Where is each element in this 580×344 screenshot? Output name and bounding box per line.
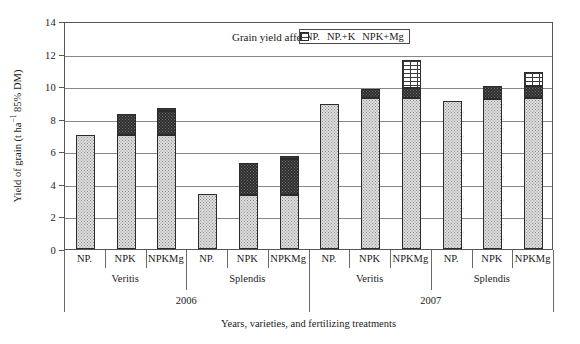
- y-tick-label-10: 10: [30, 82, 56, 93]
- treatment-label-8: NPKMg: [390, 253, 431, 264]
- variety-label-3: Splendis: [431, 273, 553, 284]
- legend-label-npkmg: NPK+Mg: [362, 31, 404, 42]
- treatment-label-6: NP.: [309, 253, 350, 264]
- treatment-label-4: NPK: [227, 253, 268, 264]
- x-axis-area: NP.NPKNPKMgNP.NPKNPKMgNP.NPKNPKMgNP.NPKN…: [64, 250, 553, 312]
- treatment-label-11: NPKMg: [512, 253, 553, 264]
- treatment-label-5: NPKMg: [268, 253, 309, 264]
- treatment-label-2: NPKMg: [146, 253, 187, 264]
- bar-segment-npk: [402, 88, 421, 98]
- bar-segment-npk: [280, 159, 299, 195]
- bar-segment-np: [483, 99, 502, 249]
- y-axis-title-exponent: −1: [9, 115, 18, 123]
- bar-segment-np: [524, 98, 543, 249]
- y-tick-label-12: 12: [30, 49, 56, 60]
- grain-yield-chart: Yield of grain (t ha−1 85% DM) 024681012…: [0, 0, 580, 344]
- bar-segment-npk: [361, 89, 380, 97]
- bar-segment-npkmg: [524, 72, 543, 87]
- variety-separator: [186, 250, 187, 290]
- legend-box: NP. NP.+K NPK+Mg: [299, 29, 410, 44]
- bar-segment-npkmg: [402, 60, 421, 88]
- bar-segment-np: [239, 195, 258, 249]
- bar-segment-np: [361, 98, 380, 249]
- bar-segment-npk: [483, 86, 502, 99]
- variety-label-2: Veritis: [309, 273, 431, 284]
- bar-segment-npk: [157, 111, 176, 135]
- bar-segment-np: [76, 135, 95, 249]
- bar-segment-np: [198, 194, 217, 249]
- variety-separator: [431, 250, 432, 290]
- y-tick-label-8: 8: [30, 114, 56, 125]
- treatment-label-10: NPK: [472, 253, 513, 264]
- bar-segment-np: [443, 101, 462, 249]
- legend-swatch-npkmg-icon: [300, 32, 309, 41]
- treatment-label-1: NPK: [105, 253, 146, 264]
- gridline-8: [65, 121, 552, 122]
- y-tick-label-0: 0: [30, 245, 56, 256]
- y-tick-label-6: 6: [30, 147, 56, 158]
- bar-segment-np: [117, 135, 136, 249]
- bar-segment-npk: [117, 114, 136, 135]
- x-axis-title: Years, varieties, and fertilizing treatm…: [64, 318, 553, 329]
- y-axis-title: Yield of grain (t ha−1 85% DM): [9, 36, 23, 236]
- year-label-1: 2007: [309, 295, 554, 306]
- bar-segment-npk: [524, 86, 543, 97]
- plot-area: [64, 22, 553, 250]
- year-label-0: 2006: [64, 295, 309, 306]
- bar-segment-npk: [239, 163, 258, 196]
- gridline-10: [65, 88, 552, 89]
- legend-item-npkmg: NPK+Mg: [362, 31, 404, 42]
- y-tick-label-4: 4: [30, 179, 56, 190]
- treatment-label-3: NP.: [186, 253, 227, 264]
- bar-segment-np: [280, 195, 299, 249]
- bar-segment-np: [157, 135, 176, 249]
- variety-label-0: Veritis: [64, 273, 186, 284]
- bar-segment-np: [320, 104, 339, 249]
- y-tick-label-2: 2: [30, 212, 56, 223]
- y-axis-title-prefix: Yield of grain (t ha: [12, 123, 23, 203]
- gridline-12: [65, 56, 552, 57]
- legend-label-npk: NP.+K: [327, 31, 355, 42]
- treatment-label-0: NP.: [64, 253, 105, 264]
- bar-segment-npkmg: [157, 108, 176, 110]
- bar-segment-npkmg: [280, 156, 299, 159]
- variety-label-1: Splendis: [186, 273, 308, 284]
- y-axis-title-suffix: 85% DM): [12, 70, 23, 115]
- bar-segment-np: [402, 98, 421, 249]
- gridline-6: [65, 153, 552, 154]
- treatment-label-7: NPK: [349, 253, 390, 264]
- treatment-label-9: NP.: [431, 253, 472, 264]
- year-separator: [553, 250, 554, 312]
- gridline-4: [65, 186, 552, 187]
- gridline-2: [65, 218, 552, 219]
- y-tick-label-14: 14: [30, 17, 56, 28]
- legend-item-npk: NP.+K: [327, 31, 355, 42]
